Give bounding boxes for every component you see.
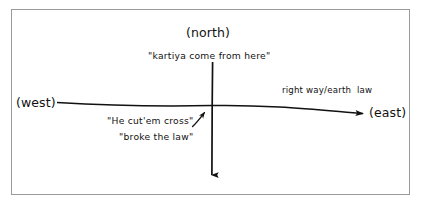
- figure-root: (north) (west) (east) "kartiya come from…: [0, 0, 423, 209]
- west-east-axis-arrow: [57, 103, 363, 114]
- label-broke-the-law: "broke the law": [119, 132, 194, 141]
- label-west: (west): [16, 97, 56, 110]
- label-right-way-earth-law: right way/earth law: [282, 86, 372, 95]
- label-kartiya-come-from-here: "kartiya come from here": [148, 51, 270, 60]
- label-north: (north): [186, 27, 230, 40]
- north-south-axis-arrow: [212, 62, 213, 175]
- crossing-point-pointer-arrow: [193, 113, 205, 127]
- label-east: (east): [369, 107, 406, 120]
- label-he-cutem-cross: "He cut'em cross": [107, 116, 194, 125]
